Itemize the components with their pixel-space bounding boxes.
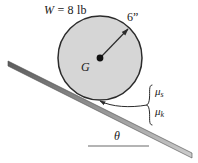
mu-kinetic-subscript: k (161, 110, 165, 119)
figure-canvas (0, 0, 198, 163)
center-of-gravity-dot (97, 55, 104, 62)
static-friction-coefficient-label: μs (155, 86, 164, 99)
weight-symbol: W (44, 3, 54, 17)
center-of-gravity-label: G (81, 61, 90, 73)
friction-brace (147, 85, 152, 125)
mu-static-subscript: s (161, 90, 164, 99)
radius-label: 6” (127, 11, 138, 23)
weight-label: W = 8 lb (44, 4, 87, 16)
mechanics-figure: W = 8 lb 6” G μs μk θ (0, 0, 198, 163)
weight-value: = 8 lb (54, 3, 87, 17)
incline-angle-label: θ (114, 130, 120, 142)
kinetic-friction-coefficient-label: μk (155, 106, 164, 119)
friction-leader-line (100, 101, 147, 107)
